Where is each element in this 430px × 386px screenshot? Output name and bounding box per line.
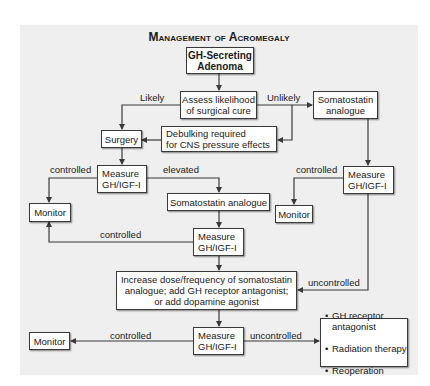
node-assess-surgical-cure: Assess likelihood of surgical cure — [180, 91, 257, 119]
node-surgery: Surgery — [101, 130, 142, 148]
node-treatment-options: GH receptor antagonist Radiation therapy… — [320, 318, 408, 367]
node-somatostatin-analogue-right: Somatostatin analogue — [313, 91, 378, 119]
edge-label-controlled-2: controlled — [296, 164, 337, 175]
option-radiation-therapy: Radiation therapy — [325, 343, 407, 354]
node-increase-dose: Increase dose/frequency of somatostatin … — [116, 271, 297, 310]
option-reoperation: Reoperation — [325, 365, 407, 376]
node-measure-left: Measure GH/IGF-I — [97, 165, 147, 193]
node-measure-mid: Measure GH/IGF-I — [193, 228, 244, 256]
node-debulking: Debulking required for CNS pressure effe… — [161, 126, 277, 152]
treatment-options-list: GH receptor antagonist Radiation therapy… — [325, 299, 407, 386]
edge-label-uncontrolled-1: uncontrolled — [308, 277, 360, 288]
node-monitor-bottom: Monitor — [29, 332, 70, 350]
edge-label-elevated: elevated — [163, 164, 199, 175]
edge-label-controlled-3: controlled — [100, 229, 141, 240]
node-gh-secreting-adenoma: GH-Secreting Adenoma — [186, 47, 254, 74]
edge-label-controlled-4: controlled — [110, 330, 151, 341]
edge-label-likely: Likely — [140, 92, 164, 103]
edge-label-unlikely: Unlikely — [267, 92, 300, 103]
node-measure-right: Measure GH/IGF-I — [343, 166, 394, 194]
option-gh-receptor-antagonist: GH receptor antagonist — [325, 310, 407, 332]
edge-label-uncontrolled-2: uncontrolled — [250, 330, 302, 341]
edge-label-controlled-1: controlled — [50, 164, 91, 175]
node-monitor-right: Monitor — [275, 205, 313, 223]
node-monitor-left: Monitor — [29, 203, 71, 222]
node-somatostatin-analogue-mid: Somatostatin analogue — [167, 193, 270, 211]
node-measure-bottom: Measure GH/IGF-I — [193, 327, 244, 355]
